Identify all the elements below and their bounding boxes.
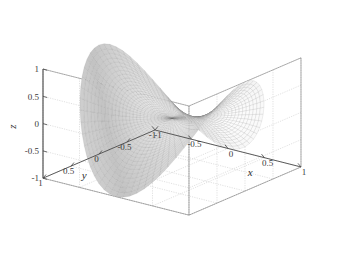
y-tick-label: 0.5 — [63, 166, 75, 176]
x-axis-title: x — [247, 166, 253, 178]
x-tick-label: 0.5 — [262, 158, 274, 168]
z-axis-title: z — [6, 124, 18, 130]
x-tick-label: -0.5 — [187, 139, 202, 149]
z-tick-label: 0.5 — [28, 92, 40, 102]
x-tick-label: 0 — [229, 149, 234, 159]
z-tick-label: 1 — [35, 64, 40, 74]
z-tick-label: 0 — [35, 119, 40, 129]
y-tick-label: 0 — [94, 154, 99, 164]
z-tick-label: -0.5 — [25, 146, 40, 156]
plot-canvas: 10.50-0.5-110.50-0.5-1-1-0.500.51 x y z — [0, 0, 341, 257]
x-tick-label: 1 — [302, 167, 307, 177]
x-tick-label: -1 — [154, 130, 162, 140]
y-tick-label: 1 — [38, 178, 43, 188]
y-tick-label: -0.5 — [117, 142, 132, 152]
y-axis-title: y — [81, 169, 87, 181]
saddle-surface-mesh — [80, 44, 264, 198]
surface-plot-figure: 10.50-0.5-110.50-0.5-1-1-0.500.51 x y z — [0, 0, 341, 257]
